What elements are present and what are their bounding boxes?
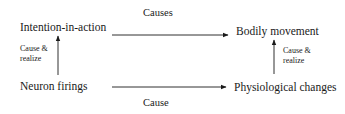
- left-edge-label: Cause & realize: [20, 44, 48, 63]
- right-edge-label: Cause & realize: [283, 46, 311, 65]
- node-neuron-firings: Neuron firings: [20, 81, 87, 93]
- node-intention-in-action: Intention-in-action: [20, 22, 106, 34]
- left-edge-label-line2: realize: [20, 54, 48, 64]
- node-physiological-changes: Physiological changes: [234, 82, 337, 94]
- left-edge-label-line1: Cause &: [20, 44, 48, 54]
- bottom-edge-label: Cause: [143, 98, 169, 109]
- node-bodily-movement: Bodily movement: [236, 26, 319, 38]
- right-edge-label-line2: realize: [283, 56, 311, 66]
- right-edge-label-line1: Cause &: [283, 46, 311, 56]
- top-edge-label: Causes: [143, 8, 173, 19]
